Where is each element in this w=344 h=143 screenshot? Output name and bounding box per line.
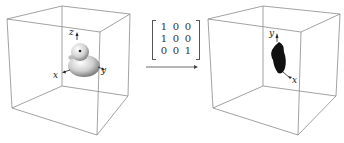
left-y-axis-label: y: [100, 65, 107, 75]
matrix-cell: 0: [182, 33, 194, 45]
duck-3d-model: [68, 43, 100, 77]
right-y-axis-label: y: [268, 28, 275, 38]
left-x-axis-label: x: [53, 70, 58, 80]
right-arrow-icon: [146, 65, 198, 69]
matrix-cell: 0: [158, 45, 170, 57]
matrix-cell: 0: [170, 33, 182, 45]
transformation-matrix: 1 0 0 1 0 0 0 0 1: [152, 20, 200, 58]
right-bounding-cube: [208, 6, 340, 135]
matrix-cell: 1: [158, 21, 170, 33]
matrix-cell: 0: [170, 21, 182, 33]
matrix-cell: 0: [170, 45, 182, 57]
matrix-grid: 1 0 0 1 0 0 0 0 1: [158, 21, 195, 57]
matrix-right-bracket: [196, 20, 200, 60]
matrix-cell: 0: [182, 21, 194, 33]
left-z-axis-label: z: [68, 27, 74, 37]
matrix-cell: 1: [158, 33, 170, 45]
right-x-axis-label: x: [292, 75, 297, 85]
matrix-left-bracket: [152, 20, 156, 60]
matrix-cell: 1: [182, 45, 194, 57]
projected-duck-silhouette: [271, 42, 286, 73]
